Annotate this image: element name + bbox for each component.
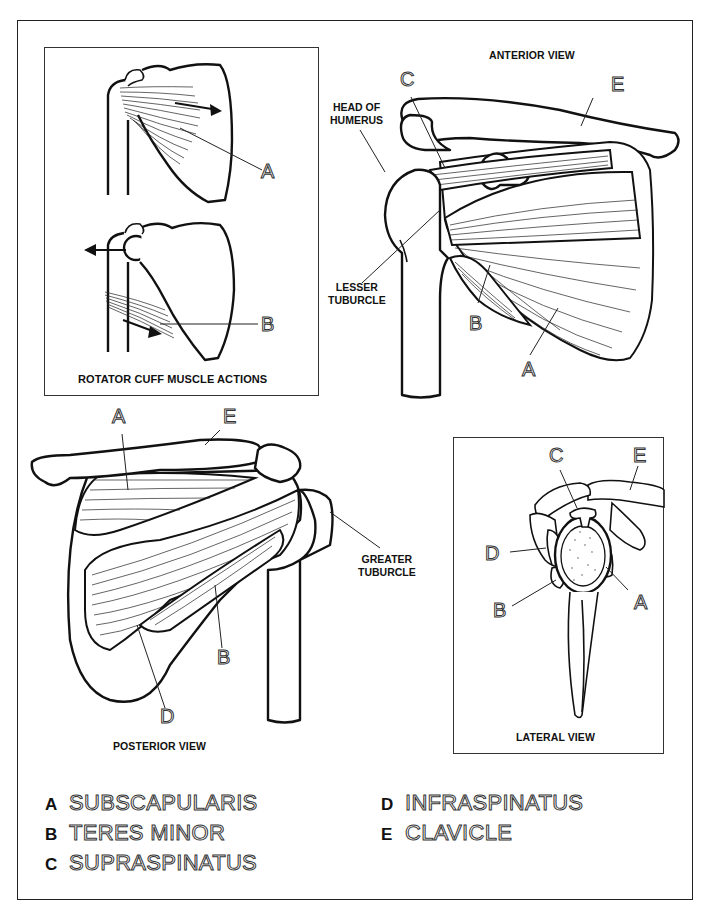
- legend-key: A: [45, 795, 69, 815]
- label-a-lateral: A: [634, 591, 647, 614]
- legend-item-a: A SUBSCAPULARIS: [45, 790, 258, 816]
- legend-item-e: E CLAVICLE: [381, 820, 512, 846]
- legend-term: CLAVICLE: [405, 820, 512, 846]
- legend-term: TERES MINOR: [69, 820, 225, 846]
- legend-term: SUBSCAPULARIS: [69, 790, 258, 816]
- legend-term: INFRASPINATUS: [405, 790, 583, 816]
- label-e-lateral: E: [633, 444, 646, 467]
- legend-item-c: C SUPRASPINATUS: [45, 850, 257, 876]
- legend-item-b: B TERES MINOR: [45, 820, 225, 846]
- legend-key: B: [45, 825, 69, 845]
- legend-item-d: D INFRASPINATUS: [381, 790, 583, 816]
- label-c-lateral: C: [549, 444, 563, 467]
- legend-key: C: [45, 855, 69, 875]
- label-d-lateral: D: [485, 542, 499, 565]
- label-b-lateral: B: [493, 599, 506, 622]
- lateral-caption: LATERAL VIEW: [516, 731, 595, 743]
- lateral-illustration: [0, 0, 713, 909]
- legend-term: SUPRASPINATUS: [69, 850, 257, 876]
- legend-key: E: [381, 825, 405, 845]
- legend-key: D: [381, 795, 405, 815]
